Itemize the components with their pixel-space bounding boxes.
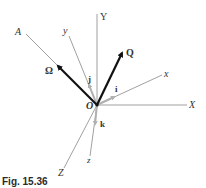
X-label: X [188, 99, 196, 110]
A-label: A [14, 26, 22, 37]
z-label: z [86, 155, 91, 165]
x-label: x [163, 68, 169, 79]
omega-label: Ω [45, 65, 53, 76]
Z-axis-line [64, 105, 97, 168]
Y-label: Y [100, 11, 107, 22]
figure-caption: Fig. 15.36 [2, 176, 48, 187]
i-label: i [115, 84, 118, 94]
kinematics-diagram: Y A y Ω Q x i j k O X Z z [0, 0, 206, 188]
Q-vector [97, 53, 122, 105]
origin-point [95, 103, 98, 106]
Q-label: Q [126, 47, 134, 58]
Z-label: Z [58, 167, 64, 178]
j-label: j [87, 74, 91, 84]
O-label: O [86, 100, 93, 111]
k-label: k [100, 119, 105, 129]
y-label: y [62, 25, 68, 36]
